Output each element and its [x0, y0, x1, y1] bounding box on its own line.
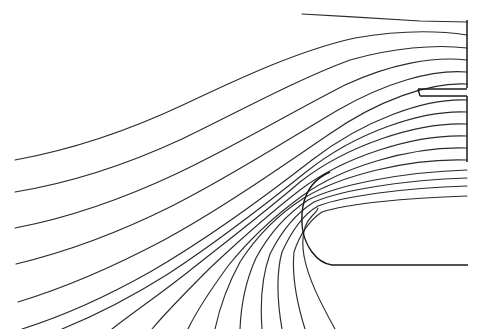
streamline-figure	[0, 0, 495, 329]
flow-field-canvas	[0, 0, 495, 329]
